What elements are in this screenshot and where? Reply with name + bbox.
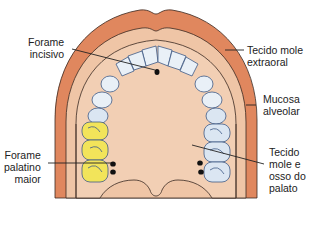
highlighted-molars	[82, 122, 108, 182]
greater-palatine-foramen-left-1	[110, 161, 116, 166]
greater-palatine-foramen-right-1	[197, 160, 203, 165]
incisive-foramen	[155, 69, 160, 75]
label-tecido-mole-osso-palato: Tecido mole e osso do palato	[269, 146, 306, 194]
greater-palatine-foramen-left-2	[110, 169, 116, 174]
label-forame-incisivo: Forame incisivo	[28, 36, 64, 60]
greater-palatine-foramen-right-2	[198, 169, 204, 174]
label-forame-palatino-maior: Forame palatino maior	[4, 149, 41, 185]
label-mucosa-alveolar: Mucosa alveolar	[263, 93, 300, 117]
label-tecido-mole-extraoral: Tecido mole extraoral	[247, 44, 303, 68]
